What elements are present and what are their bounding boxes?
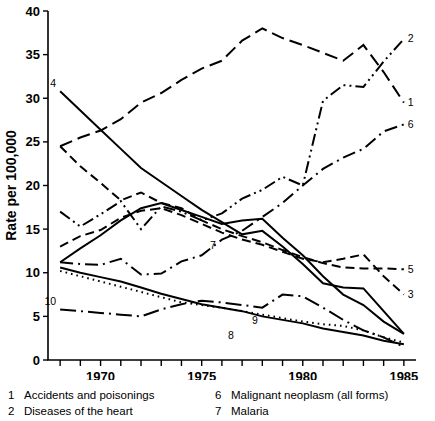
series-line-1 [60, 28, 404, 146]
series-label-8: 8 [228, 329, 234, 341]
series-label-6: 6 [408, 118, 414, 130]
series-end-labels: 12345610789 [44, 32, 413, 341]
legend-item-number: 7 [215, 404, 231, 419]
legend-item-number: 1 [8, 388, 24, 403]
legend-column-right: 6Malignant neoplasm (all forms)7Malaria [215, 388, 435, 420]
y-tick-label: 0 [33, 353, 40, 368]
series-label-7: 7 [210, 239, 216, 251]
y-tick-label: 25 [26, 134, 40, 149]
x-tick-label: 1970 [86, 369, 115, 380]
legend-item: 6Malignant neoplasm (all forms) [215, 388, 435, 404]
chart-plot-area: 05101520253035401970197519801985 Rate pe… [0, 0, 435, 380]
series-label-2: 2 [408, 32, 414, 44]
legend-item-number: 6 [215, 388, 231, 403]
legend-item: 1Accidents and poisonings [8, 388, 218, 404]
y-axis-title: Rate per 100,000 [3, 130, 19, 241]
series-label-1: 1 [408, 96, 414, 108]
series-line-6 [60, 124, 404, 274]
series-label-3: 3 [408, 288, 414, 300]
series-label-4: 4 [50, 77, 56, 89]
series-label-10: 10 [44, 295, 56, 307]
legend-item-label: Diseases of the heart [24, 404, 133, 419]
line-chart-svg: 05101520253035401970197519801985 Rate pe… [0, 0, 435, 380]
y-tick-label: 15 [26, 222, 40, 237]
y-tick-label: 10 [26, 265, 40, 280]
legend-item-label: Malignant neoplasm (all forms) [231, 388, 388, 403]
legend-item: 7Malaria [215, 404, 435, 420]
y-tick-label: 35 [26, 47, 40, 62]
legend-item-number: 2 [8, 404, 24, 419]
chart-legend: 1Accidents and poisonings2Diseases of th… [0, 388, 435, 421]
legend-item-label: Accidents and poisonings [24, 388, 154, 403]
series-label-5: 5 [408, 263, 414, 275]
y-tick-label: 40 [26, 4, 40, 19]
series-line-4 [60, 91, 404, 334]
chart-figure: 05101520253035401970197519801985 Rate pe… [0, 0, 435, 421]
series-label-9: 9 [252, 314, 258, 326]
y-axis-title-text: Rate per 100,000 [3, 130, 19, 241]
x-tick-label: 1975 [187, 369, 216, 380]
y-tick-label: 30 [26, 91, 40, 106]
y-tick-label: 5 [33, 309, 40, 324]
legend-column-left: 1Accidents and poisonings2Diseases of th… [8, 388, 218, 420]
series-line-2 [60, 39, 404, 229]
chart-axes: 05101520253035401970197519801985 [26, 4, 419, 381]
x-tick-label: 1980 [288, 369, 317, 380]
legend-item: 2Diseases of the heart [8, 404, 218, 420]
chart-series [60, 28, 404, 346]
y-tick-label: 20 [26, 178, 40, 193]
legend-item-label: Malaria [231, 404, 269, 419]
x-tick-label: 1985 [389, 369, 418, 380]
